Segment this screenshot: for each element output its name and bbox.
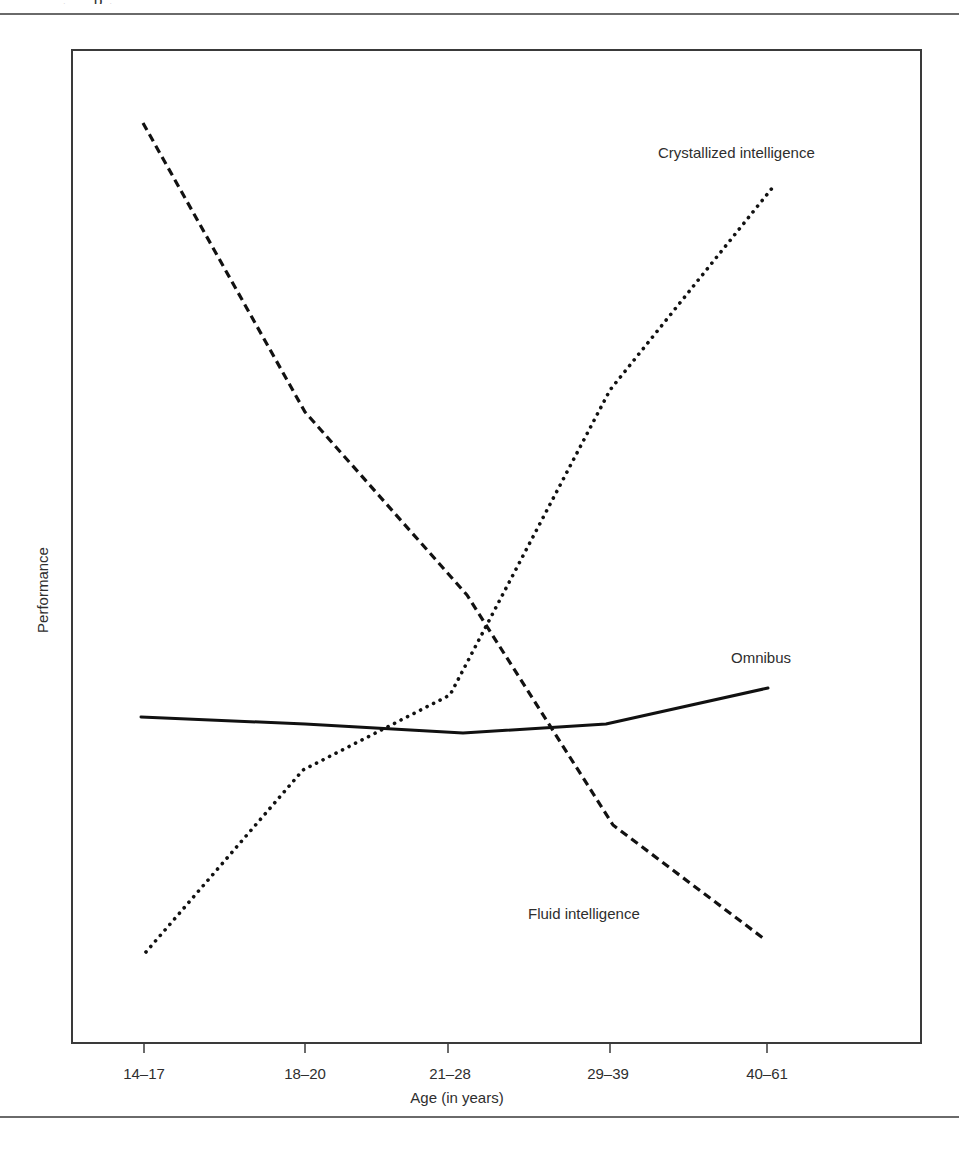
tick-label: 40–61	[746, 1065, 788, 1082]
tick-label: 18–20	[284, 1065, 326, 1082]
series-omnibus	[141, 688, 768, 733]
line-chart: 14–17 18–20 21–28 29–39 40–61 Age (in ye…	[0, 0, 959, 1159]
series-fluid-intelligence	[143, 123, 763, 938]
tick-label: 29–39	[587, 1065, 629, 1082]
label-omnibus: Omnibus	[731, 649, 791, 666]
tick-label: 14–17	[123, 1065, 165, 1082]
tick-label: 21–28	[429, 1065, 471, 1082]
x-axis-tick-labels: 14–17 18–20 21–28 29–39 40–61	[123, 1065, 788, 1082]
label-fluid-intelligence: Fluid intelligence	[528, 905, 640, 922]
series-crystallized-intelligence	[146, 187, 773, 952]
x-axis-ticks	[144, 1043, 767, 1053]
label-crystallized-intelligence: Crystallized intelligence	[658, 144, 815, 161]
plot-frame	[72, 50, 921, 1043]
x-axis-label: Age (in years)	[410, 1089, 503, 1106]
y-axis-label: Performance	[34, 547, 51, 633]
